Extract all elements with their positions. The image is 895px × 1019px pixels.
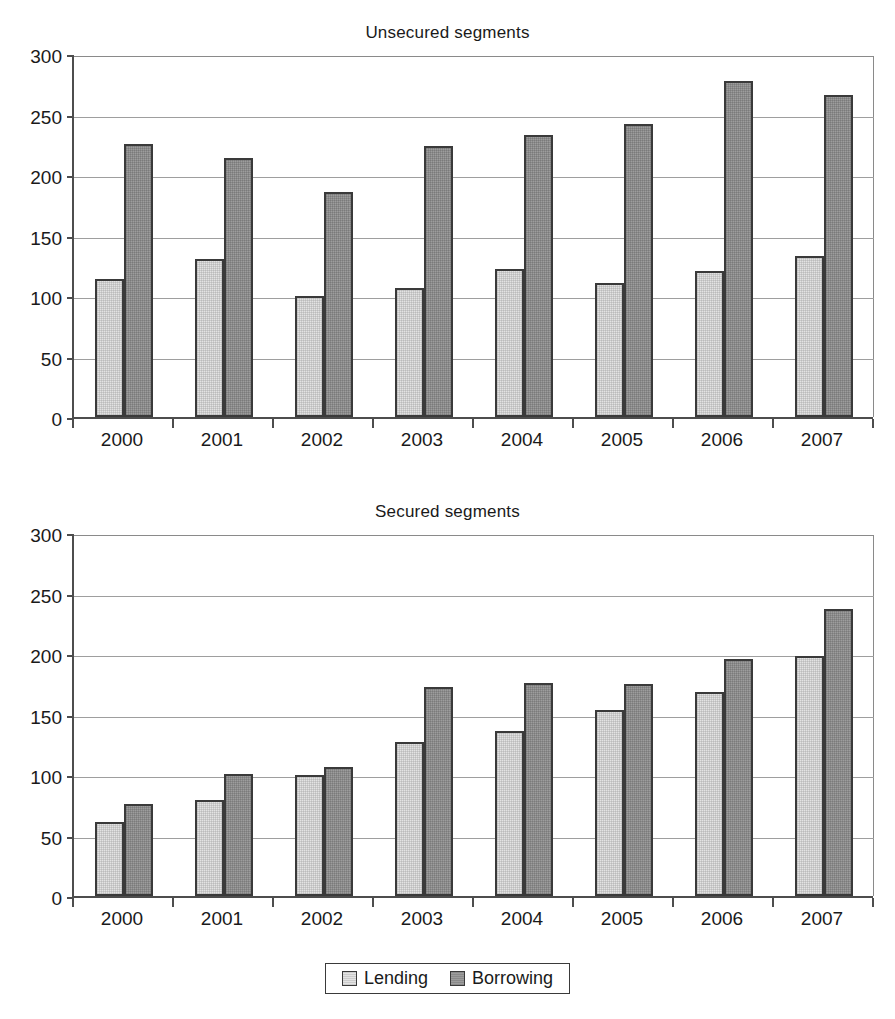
y-axis-label: 0 [51, 410, 62, 429]
bar-borrowing-2000 [124, 144, 153, 417]
x-axis-label-2007: 2007 [801, 909, 843, 928]
bar-group-2006 [695, 535, 795, 896]
bar-lending-2004 [495, 269, 524, 417]
x-axis-tick [672, 898, 674, 907]
x-axis-label-2002: 2002 [301, 430, 343, 449]
x-axis-label-2000: 2000 [101, 430, 143, 449]
bar-lending-2001 [195, 800, 224, 896]
x-axis-label-2005: 2005 [601, 430, 643, 449]
legend-label-borrowing: Borrowing [472, 969, 553, 987]
legend-label-lending: Lending [364, 969, 428, 987]
bar-lending-2005 [595, 710, 624, 896]
bar-group-2005 [595, 535, 695, 896]
bar-borrowing-2007 [824, 95, 853, 417]
y-axis-tick [67, 655, 74, 657]
bar-lending-2006 [695, 692, 724, 896]
bar-borrowing-2003 [424, 146, 453, 417]
bar-group-2004 [495, 535, 595, 896]
y-axis-label: 0 [51, 889, 62, 908]
plot-area-unsecured: 050100150200250300 200020012002200320042… [0, 41, 895, 441]
x-axis-tick [72, 419, 74, 428]
y-axis-label: 300 [30, 47, 62, 66]
legend-item-borrowing: Borrowing [450, 969, 553, 987]
y-axis-tick [67, 776, 74, 778]
x-axis-label-2002: 2002 [301, 909, 343, 928]
x-axis-tick [272, 898, 274, 907]
y-axis-label: 200 [30, 647, 62, 666]
x-axis-tick [472, 419, 474, 428]
x-axis-label-2000: 2000 [101, 909, 143, 928]
x-axis-tick [572, 898, 574, 907]
y-axis-tick [67, 837, 74, 839]
bar-borrowing-2003 [424, 687, 453, 896]
bar-group-2003 [395, 56, 495, 417]
y-axis-tick [67, 55, 74, 57]
x-axis-label-2004: 2004 [501, 430, 543, 449]
bar-borrowing-2000 [124, 804, 153, 896]
y-axis-label: 300 [30, 526, 62, 545]
x-axis-label-2006: 2006 [701, 430, 743, 449]
y-axis-label: 150 [30, 228, 62, 247]
x-axis-tick [372, 419, 374, 428]
bar-borrowing-2004 [524, 683, 553, 896]
bar-lending-2007 [795, 656, 824, 896]
y-axis-tick [67, 716, 74, 718]
bars-unsecured [74, 56, 873, 417]
x-axis-label-2004: 2004 [501, 909, 543, 928]
x-axis-tick [272, 419, 274, 428]
bar-borrowing-2002 [324, 192, 353, 417]
x-axis-tick [772, 898, 774, 907]
bar-lending-2002 [295, 296, 324, 417]
x-axis-tick [372, 898, 374, 907]
x-axis-tick [772, 419, 774, 428]
x-axis-label-2005: 2005 [601, 909, 643, 928]
bar-group-2004 [495, 56, 595, 417]
y-axis-tick [67, 595, 74, 597]
bar-group-2005 [595, 56, 695, 417]
y-axis-label: 50 [41, 828, 62, 847]
y-axis-label: 150 [30, 707, 62, 726]
bar-lending-2002 [295, 775, 324, 896]
x-axis-tick [172, 898, 174, 907]
chart-secured-segments: Secured segments 050100150200250300 2000… [0, 480, 895, 950]
bars-secured [74, 535, 873, 896]
x-axis-tick [672, 419, 674, 428]
y-axis-tick [67, 237, 74, 239]
y-axis-tick [67, 176, 74, 178]
x-axis-label-2003: 2003 [401, 909, 443, 928]
bar-borrowing-2005 [624, 684, 653, 896]
plot-frame-secured: 050100150200250300 [72, 535, 873, 898]
x-axis-label-2007: 2007 [801, 430, 843, 449]
y-axis-tick [67, 534, 74, 536]
x-axis-label-2001: 2001 [201, 909, 243, 928]
x-axis-ticks-unsecured [72, 419, 873, 428]
plot-frame-unsecured: 050100150200250300 [72, 56, 873, 419]
bar-lending-2004 [495, 731, 524, 896]
x-axis-label-2001: 2001 [201, 430, 243, 449]
chart-legend: Lending Borrowing [0, 963, 895, 994]
bar-borrowing-2006 [724, 659, 753, 896]
bar-group-2000 [95, 56, 195, 417]
x-axis-tick [872, 898, 874, 907]
bar-lending-2003 [395, 742, 424, 896]
bar-group-2003 [395, 535, 495, 896]
y-axis-tick [67, 358, 74, 360]
x-axis-tick [872, 419, 874, 428]
x-axis-label-2003: 2003 [401, 430, 443, 449]
bar-group-2002 [295, 56, 395, 417]
chart-unsecured-segments: Unsecured segments 050100150200250300 20… [0, 0, 895, 480]
bar-group-2001 [195, 56, 295, 417]
x-axis-labels-secured: 20002001200220032004200520062007 [72, 909, 873, 935]
y-axis-label: 100 [30, 289, 62, 308]
y-axis-tick [67, 297, 74, 299]
x-axis-tick [572, 419, 574, 428]
bar-lending-2000 [95, 279, 124, 417]
legend-swatch-lending-icon [342, 971, 357, 986]
bar-borrowing-2004 [524, 135, 553, 417]
bar-lending-2006 [695, 271, 724, 417]
bar-borrowing-2001 [224, 158, 253, 417]
bar-group-2007 [795, 56, 895, 417]
bar-lending-2001 [195, 259, 224, 418]
legend-box: Lending Borrowing [325, 963, 570, 994]
x-axis-label-2006: 2006 [701, 909, 743, 928]
